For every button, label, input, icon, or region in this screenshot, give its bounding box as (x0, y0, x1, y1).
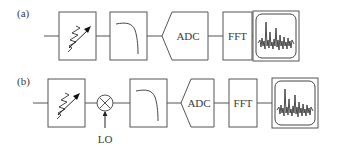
adc-block: ADC (181, 79, 214, 127)
adc-label: ADC (176, 30, 199, 42)
spectrum-display-block (272, 78, 318, 128)
lowpass-filter-block (130, 79, 167, 127)
fft-label: FFT (234, 97, 253, 109)
panel-label-a: (a) (17, 7, 30, 20)
adc-block: ADC (162, 12, 208, 60)
panel-label-b: (b) (17, 75, 30, 88)
panel-b: (b) LO A (17, 75, 318, 145)
lowpass-filter-block (110, 12, 147, 60)
panel-a: (a) ADC FFT (17, 7, 299, 61)
block-diagram: (a) ADC FFT (0, 0, 337, 152)
lo-label: LO (98, 133, 113, 145)
mixer-block: LO (97, 95, 113, 145)
adc-label: ADC (187, 97, 210, 109)
attenuator-block (48, 79, 85, 127)
fft-block: FFT (229, 79, 257, 127)
fft-block: FFT (223, 12, 252, 60)
spectrum-display-block (253, 11, 299, 61)
attenuator-block (59, 12, 96, 60)
fft-label: FFT (228, 30, 247, 42)
